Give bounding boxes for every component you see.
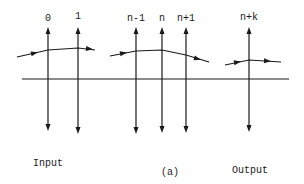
ray-arrow-icon <box>120 51 127 56</box>
lens-label-1: 1 <box>73 12 83 22</box>
arrow-down-icon <box>184 126 189 133</box>
ray-arrow-icon <box>86 46 93 51</box>
lens-3 <box>160 27 165 133</box>
output-lens-label: Output lens <box>229 143 271 184</box>
ray-0 <box>17 48 95 57</box>
lens-label-n-plus-k: n+k <box>237 13 261 23</box>
arrow-up-icon <box>247 27 252 34</box>
lens-4 <box>184 27 189 133</box>
arrow-up-icon <box>184 27 189 34</box>
lens-group <box>46 27 252 134</box>
ray-arrow-icon <box>193 55 200 60</box>
ray-arrow-icon <box>264 58 271 63</box>
input-lens-label: Input lens <box>28 136 68 184</box>
lens-label-n-plus-1: n+1 <box>174 14 198 24</box>
arrow-down-icon <box>160 126 165 133</box>
lens-label-n: n <box>157 14 167 24</box>
lens-label-0: 0 <box>43 14 53 24</box>
ray-arrow-icon <box>234 60 241 65</box>
ray-2 <box>225 60 281 65</box>
arrow-down-icon <box>76 127 81 134</box>
figure-caption: (a) <box>160 168 180 178</box>
ray-group <box>17 46 281 65</box>
ray-1 <box>110 50 209 62</box>
output-lens-label-line1: Output <box>229 165 271 176</box>
lens-2 <box>134 27 139 134</box>
arrow-down-icon <box>134 127 139 134</box>
arrow-up-icon <box>76 27 81 34</box>
lens-label-n-minus-1: n-1 <box>124 14 148 24</box>
arrow-up-icon <box>160 27 165 34</box>
arrow-down-icon <box>247 125 252 132</box>
arrow-up-icon <box>134 27 139 34</box>
arrow-up-icon <box>46 27 51 34</box>
input-lens-label-line1: Input <box>28 158 68 169</box>
lens-1 <box>76 27 81 134</box>
arrow-down-icon <box>46 124 51 131</box>
